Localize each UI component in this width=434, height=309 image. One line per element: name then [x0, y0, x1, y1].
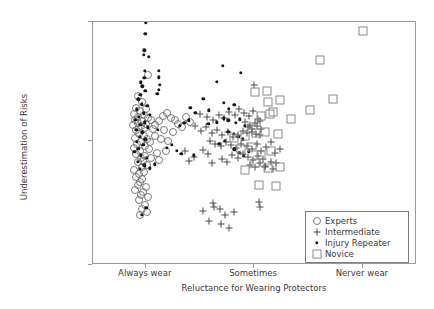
- data-point-injury-repeater: [142, 48, 145, 51]
- x-axis-title: Reluctance for Wearing Protectors: [92, 283, 416, 293]
- data-point-novice: [261, 127, 270, 136]
- data-point-injury-repeater: [144, 22, 147, 24]
- data-point-novice: [359, 27, 368, 36]
- data-point-novice: [269, 108, 278, 117]
- data-point-intermediate: [256, 203, 263, 210]
- data-point-injury-repeater: [141, 84, 144, 87]
- data-point-intermediate: [231, 208, 238, 215]
- x-tick-label: Sometimes: [229, 268, 277, 278]
- data-point-novice: [240, 165, 249, 174]
- data-point-experts: [155, 156, 163, 164]
- y-axis-ticks: [92, 21, 98, 264]
- y-axis-title: Underestimation of Risks: [19, 47, 29, 247]
- legend-label: Experts: [325, 216, 357, 226]
- y-tick-mark: [88, 140, 92, 141]
- legend-label: Novice: [325, 249, 354, 259]
- legend-item-novice[interactable]: Novice: [309, 248, 404, 259]
- data-point-injury-repeater: [144, 32, 147, 35]
- data-point-novice: [273, 129, 282, 138]
- data-point-novice: [262, 87, 271, 96]
- data-point-injury-repeater: [175, 149, 178, 152]
- filled-dot-icon: [309, 237, 325, 248]
- data-point-injury-repeater: [139, 81, 142, 84]
- data-point-novice: [257, 111, 266, 120]
- scatter-plot-figure: Always wearSometimesNerver wear Don't ca…: [0, 0, 434, 309]
- data-point-intermediate: [192, 123, 199, 130]
- data-point-novice: [287, 115, 296, 124]
- data-point-injury-repeater: [170, 143, 173, 146]
- data-point-injury-repeater: [227, 118, 230, 121]
- data-point-novice: [272, 181, 281, 190]
- data-point-novice: [241, 132, 250, 141]
- data-point-injury-repeater: [155, 92, 158, 95]
- data-point-injury-repeater: [183, 121, 186, 124]
- data-point-injury-repeater: [207, 109, 210, 112]
- open-square-icon: [309, 248, 325, 259]
- data-point-injury-repeater: [179, 152, 182, 155]
- data-point-novice: [276, 162, 285, 171]
- data-point-intermediate: [205, 151, 212, 158]
- data-point-injury-repeater: [148, 167, 151, 170]
- data-point-injury-repeater: [239, 71, 242, 74]
- data-point-intermediate: [222, 211, 229, 218]
- data-point-experts: [169, 128, 177, 136]
- data-point-injury-repeater: [144, 89, 147, 92]
- open-circle-icon: [309, 215, 325, 226]
- data-point-novice: [316, 55, 325, 64]
- data-point-intermediate: [182, 148, 189, 155]
- data-point-injury-repeater: [188, 106, 191, 109]
- data-point-experts: [151, 132, 159, 140]
- legend: ExpertsIntermediateInjury RepeaterNovice: [305, 211, 409, 263]
- legend-item-intermediate[interactable]: Intermediate: [309, 226, 404, 237]
- data-point-injury-repeater: [207, 122, 210, 125]
- data-point-novice: [263, 164, 272, 173]
- data-point-injury-repeater: [215, 80, 218, 83]
- data-point-intermediate: [200, 208, 207, 215]
- data-point-injury-repeater: [153, 163, 156, 166]
- data-point-intermediate: [267, 138, 274, 145]
- data-point-injury-repeater: [234, 121, 237, 124]
- y-tick-mark: [88, 21, 92, 22]
- legend-item-experts[interactable]: Experts: [309, 215, 404, 226]
- legend-item-injury-repeater[interactable]: Injury Repeater: [309, 237, 404, 248]
- data-point-injury-repeater: [215, 120, 218, 123]
- legend-label: Intermediate: [325, 227, 380, 237]
- data-point-novice: [251, 158, 260, 167]
- data-point-novice: [263, 97, 272, 106]
- y-tick-mark: [88, 264, 92, 265]
- data-point-experts: [147, 154, 155, 162]
- plus-icon: [309, 226, 325, 237]
- data-point-injury-repeater: [157, 69, 160, 72]
- data-point-novice: [230, 133, 239, 142]
- data-point-intermediate: [205, 218, 212, 225]
- data-point-injury-repeater: [142, 53, 145, 56]
- data-point-injury-repeater: [221, 64, 224, 67]
- data-point-intermediate: [218, 221, 225, 228]
- data-point-novice: [275, 95, 284, 104]
- data-point-injury-repeater: [201, 97, 204, 100]
- legend-label: Injury Repeater: [325, 238, 391, 248]
- data-point-novice: [251, 88, 260, 97]
- data-point-injury-repeater: [147, 55, 150, 58]
- data-point-intermediate: [250, 108, 257, 115]
- data-point-experts: [160, 126, 168, 134]
- data-point-intermediate: [224, 158, 231, 165]
- data-point-injury-repeater: [157, 88, 160, 91]
- data-point-novice: [251, 129, 260, 138]
- data-point-intermediate: [226, 225, 233, 232]
- data-point-intermediate: [276, 146, 283, 153]
- data-point-injury-repeater: [158, 83, 161, 86]
- data-point-injury-repeater: [157, 76, 160, 79]
- data-point-intermediate: [196, 111, 203, 118]
- x-tick-label: Always wear: [118, 268, 171, 278]
- data-point-injury-repeater: [222, 101, 225, 104]
- data-point-novice: [306, 105, 315, 114]
- data-point-novice: [247, 142, 256, 151]
- data-point-novice: [254, 180, 263, 189]
- data-point-novice: [329, 95, 338, 104]
- data-point-intermediate: [209, 159, 216, 166]
- data-point-novice: [266, 147, 275, 156]
- x-tick-label: Nerver wear: [336, 268, 388, 278]
- data-point-novice: [236, 144, 245, 153]
